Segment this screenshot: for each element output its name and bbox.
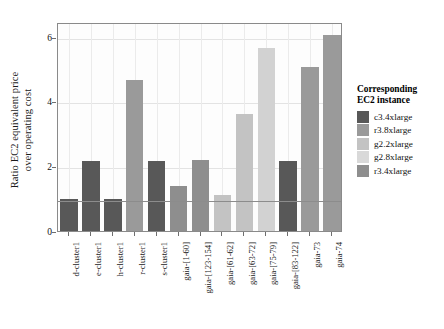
x-tick-label: h-cluster1 [115,242,125,276]
x-tick-mark [90,232,91,236]
legend-item: g2.2xlarge [357,137,443,151]
x-tick-mark [178,232,179,236]
x-tick-label: gaia-[61-62] [225,242,235,285]
bar [279,161,297,231]
bar [258,48,276,231]
legend-label: c3.4xlarge [374,112,412,122]
x-tick-label: gaia-[63-72] [247,242,257,285]
bar [60,199,78,231]
reference-line [58,201,341,202]
x-tick-label: d-cluster1 [71,242,81,276]
legend-swatch [357,138,369,150]
horizontal-gridline [58,103,341,104]
bar [323,35,341,231]
bar [192,160,210,231]
legend-swatch [357,151,369,163]
bar [236,114,254,231]
y-tick-label: 4 [38,97,52,107]
bar-chart-figure: Ratio EC2 equivalent price over operatin… [0,0,444,329]
horizontal-gridline [58,39,341,40]
x-tick-label: r-cluster1 [137,242,147,275]
x-tick-mark [134,232,135,236]
legend-title-line-2: EC2 instance [357,95,443,106]
x-tick-mark [309,232,310,236]
legend-item: c3.4xlarge [357,110,443,124]
y-tick-label: 2 [38,162,52,172]
x-tick-mark [221,232,222,236]
legend-title-line-1: Corresponding [357,84,443,95]
plot-area [57,23,342,232]
y-tick-mark [52,38,56,39]
x-tick-label: gaia-[83-122] [290,242,300,289]
y-tick-mark [52,232,56,233]
x-tick-label: e-cluster1 [93,242,103,276]
x-tick-label: gaia-[75-79] [268,242,278,285]
legend-label: g2.2xlarge [374,139,413,149]
legend-item: r3.4xlarge [357,164,443,178]
x-tick-mark [287,232,288,236]
x-tick-label: s-cluster1 [159,242,169,275]
x-tick-mark [265,232,266,236]
y-axis-ticks: 0246 [36,0,52,329]
x-tick-label: gaia-[123-154] [203,242,213,294]
legend-swatch [357,165,369,177]
bar [126,80,144,231]
y-tick-label: 6 [38,33,52,43]
y-tick-mark [52,167,56,168]
x-tick-mark [112,232,113,236]
legend-swatch [357,124,369,136]
x-tick-mark [156,232,157,236]
bar [148,161,166,231]
y-tick-mark [52,102,56,103]
y-axis-label-container: Ratio EC2 equivalent price over operatin… [4,30,38,230]
legend-swatch [357,111,369,123]
legend-label: r3.4xlarge [374,166,411,176]
legend-label: r3.8xlarge [374,125,411,135]
x-axis: d-cluster1e-cluster1h-cluster1r-cluster1… [57,232,342,329]
x-tick-mark [243,232,244,236]
bar [104,199,122,231]
y-axis-label-line-2: over operating cost [21,72,34,189]
x-tick-label: gaia-73 [312,242,322,268]
x-tick-mark [331,232,332,236]
legend-entries: c3.4xlarger3.8xlargeg2.2xlargeg2.8xlarge… [357,110,443,178]
x-tick-mark [200,232,201,236]
legend-item: g2.8xlarge [357,151,443,165]
y-axis-label-line-1: Ratio EC2 equivalent price [8,72,21,189]
legend: Corresponding EC2 instance c3.4xlarger3.… [357,84,443,178]
y-axis-label: Ratio EC2 equivalent price over operatin… [8,72,34,189]
x-tick-label: gaia-[1-60] [181,242,191,281]
legend-title: Corresponding EC2 instance [357,84,443,105]
bar [82,161,100,231]
y-tick-label: 0 [38,227,52,237]
legend-label: g2.8xlarge [374,152,413,162]
bar [170,186,188,231]
x-tick-label: gaia-74 [334,242,344,268]
x-tick-mark [68,232,69,236]
bar [301,67,319,231]
legend-item: r3.8xlarge [357,124,443,138]
